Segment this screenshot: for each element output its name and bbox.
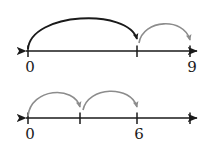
bottom-jump-arc-2 [83, 91, 137, 110]
bottom-label-0: 0 [25, 125, 35, 143]
top-number-line: 0 9 [25, 18, 197, 76]
top-jump-arc-1 [28, 18, 137, 49]
figure-canvas: 0 9 0 6 [0, 0, 217, 153]
bottom-number-line: 0 6 [25, 91, 197, 143]
top-label-0: 0 [25, 58, 35, 76]
number-line-diagram: 0 9 0 6 [0, 0, 217, 153]
bottom-jump-arc-1 [28, 92, 80, 116]
bottom-label-6: 6 [134, 125, 144, 143]
top-jump-arc-2 [139, 24, 190, 43]
top-label-9: 9 [187, 58, 197, 76]
